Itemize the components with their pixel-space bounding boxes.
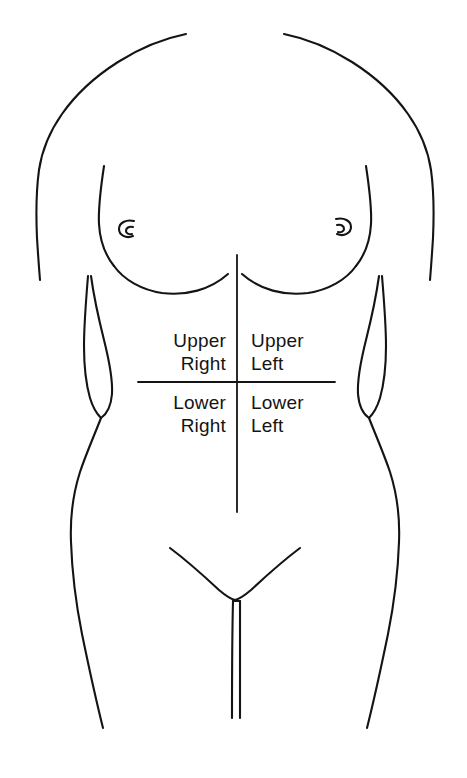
right-inner-arm-line	[356, 166, 371, 266]
groin-right-branch-line	[235, 548, 300, 600]
quadrant-label-lower-left: Lower Left	[251, 391, 371, 437]
quadrant-label-upper-left: Upper Left	[251, 329, 371, 375]
body-outline-svg	[0, 0, 467, 778]
abdominal-quadrants-diagram: Upper Right Upper Left Lower Right Lower…	[0, 0, 467, 778]
left-arm-sliver-inner-line	[91, 276, 112, 418]
left-shoulder-outer-arm-line	[36, 34, 186, 280]
groin-cleft-left-line	[232, 601, 233, 718]
left-breast-underline	[114, 266, 228, 294]
right-shoulder-outer-arm-line	[284, 34, 434, 280]
right-nipple-inner-icon	[337, 225, 344, 233]
quadrant-label-lower-right: Lower Right	[118, 391, 226, 437]
quadrant-label-upper-right: Upper Right	[118, 329, 226, 375]
left-inner-arm-line	[99, 166, 114, 266]
left-arm-sliver-outer-line	[84, 276, 101, 418]
right-torso-waist-hip-line	[367, 418, 399, 728]
left-nipple-inner-icon	[126, 227, 133, 235]
right-breast-underline	[242, 266, 356, 294]
groin-left-branch-line	[170, 548, 235, 600]
left-torso-waist-hip-line	[71, 418, 103, 728]
right-arm-sliver-outer-line	[369, 276, 386, 418]
